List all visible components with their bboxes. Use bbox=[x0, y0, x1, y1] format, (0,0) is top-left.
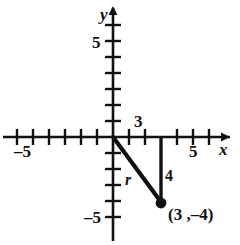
coordinate-plane-figure: y x 5 –5 –5 5 3 4 r (3 ,–4) bbox=[0, 0, 240, 245]
x-axis-label: x bbox=[219, 141, 228, 158]
y-tick-label-5: 5 bbox=[92, 34, 101, 51]
radius-label: r bbox=[125, 172, 131, 188]
y-tick-label-neg5: –5 bbox=[84, 209, 101, 226]
y-axis-arrow-icon bbox=[109, 6, 118, 15]
x-tick-label-neg5: –5 bbox=[14, 143, 31, 160]
point-coordinate-label: (3 ,–4) bbox=[168, 206, 213, 223]
y-axis-label: y bbox=[100, 6, 108, 23]
vertical-leg-length-label: 4 bbox=[165, 168, 173, 184]
x-projection-label-3: 3 bbox=[134, 113, 143, 130]
x-tick-label-5: 5 bbox=[189, 143, 198, 160]
data-point-dot bbox=[156, 198, 167, 209]
